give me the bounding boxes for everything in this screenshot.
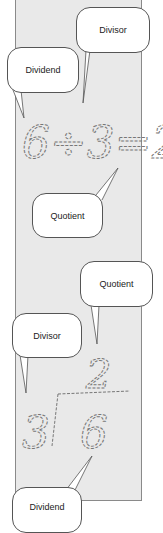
callout-label: Dividend [25, 65, 60, 75]
callout-dividend-top: Dividend [7, 47, 79, 93]
callout-label: Quotient [50, 211, 84, 221]
callout-divisor-top: Divisor [76, 7, 150, 53]
callout-quotient-bottom: Quotient [80, 261, 153, 307]
callout-label: Quotient [99, 279, 133, 289]
callout-quotient-top: Quotient [32, 193, 103, 238]
callout-label: Divisor [99, 25, 127, 35]
callout-label: Dividend [29, 502, 64, 512]
callout-label: Divisor [33, 331, 61, 341]
callout-divisor-bottom: Divisor [12, 313, 82, 358]
callout-dividend-bottom: Dividend [12, 487, 82, 533]
